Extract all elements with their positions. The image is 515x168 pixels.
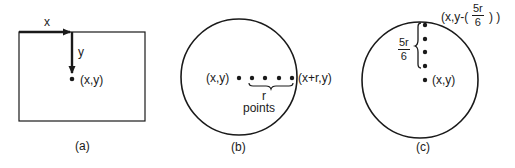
radius-point-1 <box>250 76 254 80</box>
radius-point-2 <box>263 76 267 80</box>
top-point <box>423 23 427 27</box>
top-label-suffix: ) ) <box>489 11 500 23</box>
fraction-numerator: 5r <box>398 37 410 50</box>
circle-c <box>362 22 478 138</box>
center-point <box>237 76 241 80</box>
edge-label: (x+r,y) <box>298 72 332 84</box>
radius-point-3 <box>277 76 281 80</box>
caption-b: (b) <box>231 141 246 153</box>
center-label: (x,y) <box>206 72 229 84</box>
caption-c: (c) <box>416 141 430 153</box>
radius-point-4 <box>290 76 294 80</box>
y-axis-label: y <box>78 46 84 58</box>
top-label-prefix: (x,y-( <box>441 11 468 23</box>
center-point <box>423 78 427 82</box>
x-axis-label: x <box>44 16 50 28</box>
fraction-denominator: 6 <box>475 16 481 28</box>
point-label: (x,y) <box>80 74 103 86</box>
caption-a: (a) <box>75 140 90 152</box>
vertical-point-2 <box>423 37 427 41</box>
brace-horizontal <box>249 83 293 89</box>
fraction-denominator: 6 <box>401 50 407 62</box>
top-label-fraction: 5r 6 <box>472 3 484 28</box>
vertical-point-3 <box>423 50 427 54</box>
point-xy <box>70 77 75 82</box>
brace-vertical <box>415 23 421 68</box>
panel-b <box>181 19 297 135</box>
center-label: (x,y) <box>432 74 455 86</box>
brace-label-points: points <box>243 102 275 114</box>
fraction-numerator: 5r <box>472 3 484 16</box>
vertical-point-4 <box>423 64 427 68</box>
panel-c <box>362 22 478 138</box>
brace-fraction: 5r 6 <box>398 37 410 62</box>
